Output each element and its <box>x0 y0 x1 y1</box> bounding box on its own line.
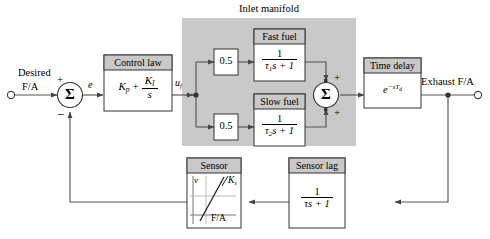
fast-fuel-title: Fast fuel <box>254 32 305 42</box>
output-terminal <box>474 91 481 98</box>
error-signal-label: e <box>88 80 93 91</box>
wire-output-to-feedback <box>395 95 448 202</box>
control-law-kp-sub: p <box>126 85 130 94</box>
sensor-title: Sensor <box>187 161 241 171</box>
error-sum-minus-sign: − <box>57 108 64 121</box>
sensor-x-axis-label: F/A <box>211 214 226 224</box>
control-law-ki-sub: I <box>152 79 155 88</box>
slow-fuel-title: Slow fuel <box>254 97 305 107</box>
control-law-title: Control law <box>104 58 172 68</box>
slow-fuel-denominator: τ2s + 1 <box>262 125 297 138</box>
control-law-plus: + <box>130 80 142 92</box>
time-delay-title: Time delay <box>364 61 421 71</box>
diagram-canvas <box>0 0 490 239</box>
input-terminal <box>7 91 14 98</box>
sensor-slope-label: Ks <box>228 176 237 186</box>
fast-fuel-fraction: 1 τ1s + 1 <box>262 48 297 73</box>
output-signal-label: Exhaust F/A <box>421 77 474 88</box>
control-law-s: s <box>142 89 158 101</box>
control-law-ki: K <box>145 74 152 86</box>
control-law-expression: Kp+ KI s <box>104 75 172 100</box>
fast-fuel-numerator: 1 <box>262 48 297 60</box>
control-output-label: uf <box>175 78 182 90</box>
inlet-manifold-label: Inlet manifold <box>182 4 356 15</box>
fast-fuel-expression: 1 τ1s + 1 <box>254 48 305 73</box>
sensor-lag-fraction: 1 τs + 1 <box>301 186 332 209</box>
fuel-sum-plus-sign-top: + <box>334 72 340 83</box>
fast-fuel-gain-value: 0.5 <box>214 56 238 67</box>
fuel-sum-symbol: Σ <box>314 86 338 103</box>
sensor-lag-denominator: τs + 1 <box>301 198 332 209</box>
node-dot-output-branch <box>445 92 450 97</box>
sensor-lag-title: Sensor lag <box>289 161 345 171</box>
slow-fuel-numerator: 1 <box>262 113 297 125</box>
time-delay-exponent: −sT <box>388 83 400 91</box>
time-delay-expression: e−sTd <box>364 84 421 95</box>
input-signal-label-line1: Desired <box>18 68 51 79</box>
block-diagram: Inlet manifold Desired F/A + − Σ e Contr… <box>0 0 490 239</box>
slow-fuel-expression: 1 τ2s + 1 <box>254 113 305 138</box>
sensor-lag-numerator: 1 <box>301 186 332 198</box>
fast-fuel-denominator: τ1s + 1 <box>262 60 297 73</box>
time-delay-exponent-sub: d <box>399 86 402 92</box>
control-law-kp: K <box>118 80 125 92</box>
node-dot-control-split <box>193 92 198 97</box>
slow-fuel-gain-value: 0.5 <box>214 121 238 132</box>
sensor-y-axis-label: v <box>194 176 198 185</box>
wire-sensor-to-sum <box>70 112 187 202</box>
control-law-ki-over-s: KI s <box>142 75 158 100</box>
error-sum-symbol: Σ <box>58 86 82 103</box>
error-sum-plus-sign: + <box>57 74 63 85</box>
input-signal-label-line2: F/A <box>22 82 38 93</box>
fuel-sum-plus-sign-bottom: + <box>334 107 340 118</box>
slow-fuel-fraction: 1 τ2s + 1 <box>262 113 297 138</box>
control-output-sub: f <box>180 82 182 89</box>
sensor-lag-expression: 1 τs + 1 <box>289 186 345 209</box>
